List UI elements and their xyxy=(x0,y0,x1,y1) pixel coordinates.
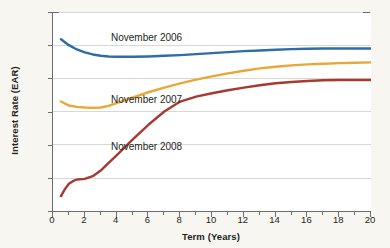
series-label-november-2007: November 2007 xyxy=(111,94,182,105)
axis-top-right-tick xyxy=(363,12,370,13)
x-tick-label-16: 16 xyxy=(294,214,318,225)
x-tick-label-2: 2 xyxy=(72,214,96,225)
series-line-november-2008 xyxy=(61,80,371,196)
x-tick-label-0: 0 xyxy=(40,214,64,225)
y-tick-5pct xyxy=(48,45,52,46)
x-tick-label-14: 14 xyxy=(263,214,287,225)
y-tick-1pct xyxy=(48,178,52,179)
series-line-november-2006 xyxy=(61,39,371,57)
x-minor-tick-5 xyxy=(132,212,133,215)
x-tick-label-8: 8 xyxy=(167,214,191,225)
x-minor-tick-19 xyxy=(354,212,355,215)
x-minor-tick-15 xyxy=(291,212,292,215)
y-tick-6pct xyxy=(48,12,52,13)
series-label-november-2008: November 2008 xyxy=(111,141,182,152)
x-tick-label-20: 20 xyxy=(358,214,382,225)
x-tick-label-12: 12 xyxy=(231,214,255,225)
x-tick-label-18: 18 xyxy=(326,214,350,225)
series-label-november-2006: November 2006 xyxy=(111,32,182,43)
x-minor-tick-3 xyxy=(100,212,101,215)
plot-area: November 2006 November 2007 November 200… xyxy=(52,12,371,212)
x-minor-tick-11 xyxy=(227,212,228,215)
x-minor-tick-17 xyxy=(322,212,323,215)
series-line-november-2007 xyxy=(61,62,371,107)
y-tick-2pct xyxy=(48,145,52,146)
y-axis-title: Interest Rate (EAR) xyxy=(9,11,20,211)
y-tick-4pct xyxy=(48,78,52,79)
x-minor-tick-1 xyxy=(68,212,69,215)
x-axis-title: Term (Years) xyxy=(52,231,370,242)
series-lines xyxy=(53,12,371,211)
x-tick-label-4: 4 xyxy=(104,214,128,225)
x-minor-tick-7 xyxy=(163,212,164,215)
interest-rate-chart: November 2006 November 2007 November 200… xyxy=(0,0,390,248)
x-tick-label-10: 10 xyxy=(199,214,223,225)
x-minor-tick-9 xyxy=(195,212,196,215)
x-tick-label-6: 6 xyxy=(135,214,159,225)
x-minor-tick-13 xyxy=(259,212,260,215)
axis-top-tick xyxy=(52,12,59,13)
y-tick-3pct xyxy=(48,112,52,113)
